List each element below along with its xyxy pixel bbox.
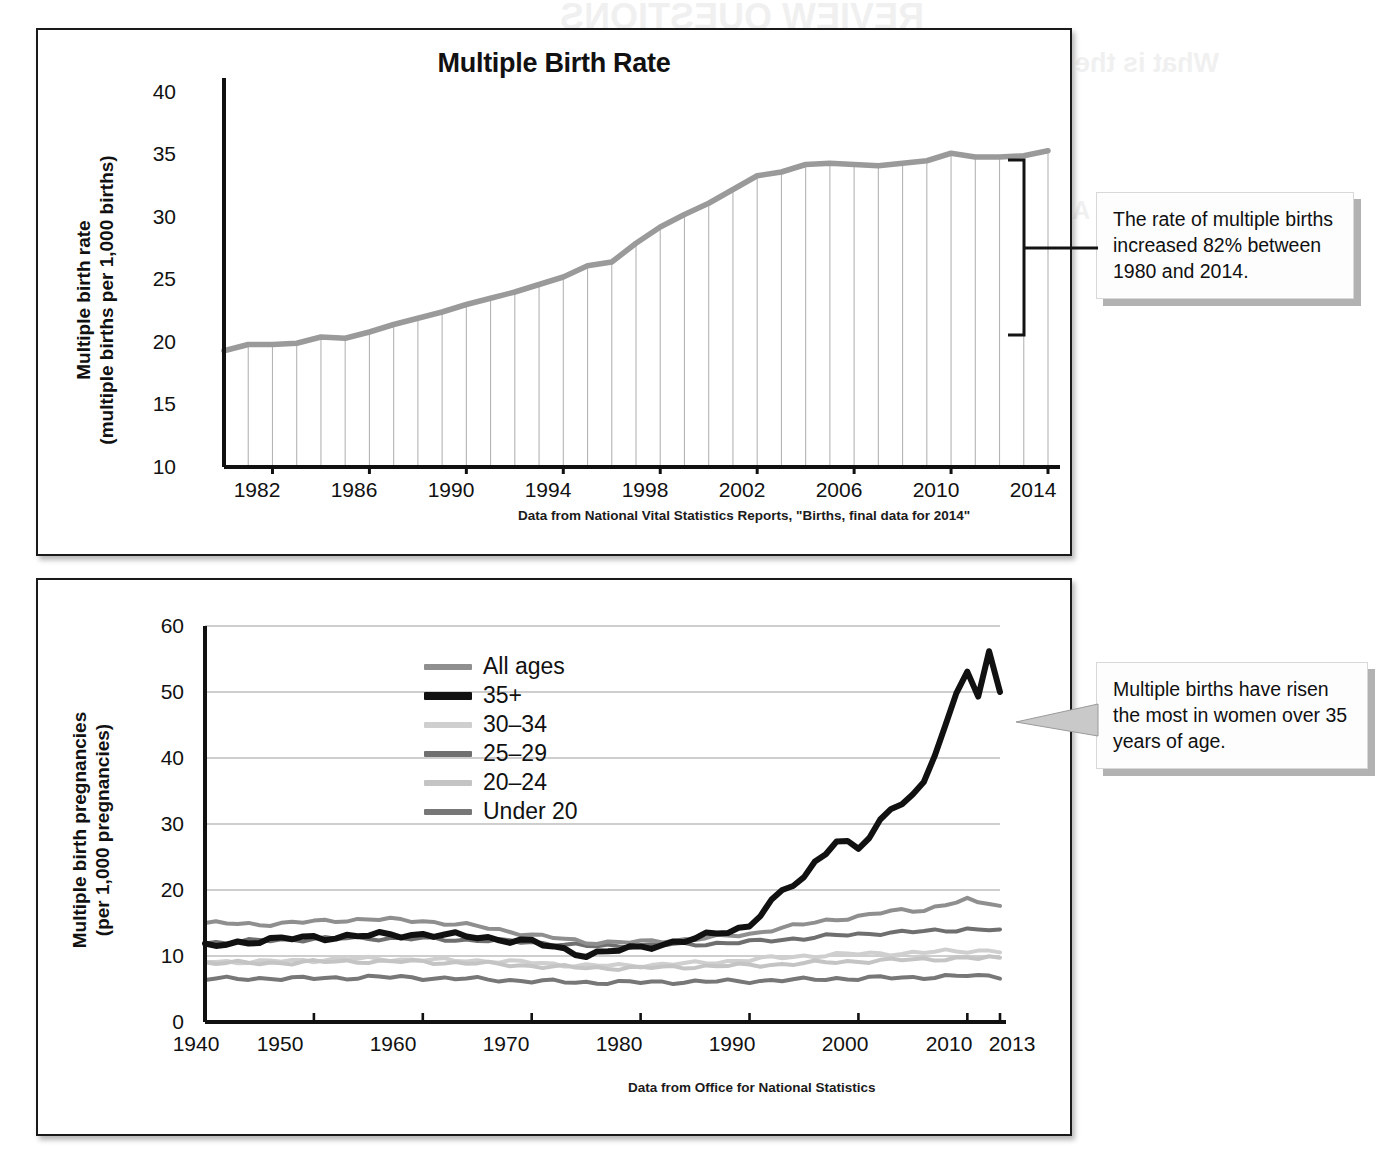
legend-item-30-34[interactable]: 30–34 bbox=[424, 710, 578, 739]
legend-swatch-icon bbox=[424, 692, 472, 700]
callout-bottom: Multiple births have risen the most in w… bbox=[1096, 662, 1368, 769]
legend-swatch-icon bbox=[424, 664, 472, 670]
legend-label: All ages bbox=[483, 655, 565, 678]
callout-top: The rate of multiple births increased 82… bbox=[1096, 192, 1354, 299]
legend-label: 35+ bbox=[483, 684, 522, 707]
chart-source-top: Data from National Vital Statistics Repo… bbox=[518, 508, 970, 523]
legend-swatch-icon bbox=[424, 722, 472, 728]
legend-swatch-icon bbox=[424, 751, 472, 757]
chart-source-bottom: Data from Office for National Statistics bbox=[628, 1080, 876, 1095]
legend-label: Under 20 bbox=[483, 800, 578, 823]
legend-item-35[interactable]: 35+ bbox=[424, 681, 578, 710]
chart-panel-multiple-birth-rate: Multiple Birth Rate Multiple birth rate … bbox=[36, 28, 1072, 556]
legend-item-all-ages[interactable]: All ages bbox=[424, 652, 578, 681]
legend-label: 30–34 bbox=[483, 713, 547, 736]
legend-swatch-icon bbox=[424, 780, 472, 786]
legend-swatch-icon bbox=[424, 809, 472, 815]
legend-label: 20–24 bbox=[483, 771, 547, 794]
chart-plot-top bbox=[38, 30, 1070, 500]
chart-legend: All ages35+30–3425–2920–24Under 20 bbox=[424, 652, 578, 826]
legend-item-25-29[interactable]: 25–29 bbox=[424, 739, 578, 768]
legend-item-under-20[interactable]: Under 20 bbox=[424, 797, 578, 826]
callout-leader-top bbox=[1000, 150, 1100, 350]
legend-item-20-24[interactable]: 20–24 bbox=[424, 768, 578, 797]
legend-label: 25–29 bbox=[483, 742, 547, 765]
callout-leader-bottom bbox=[1016, 690, 1106, 750]
